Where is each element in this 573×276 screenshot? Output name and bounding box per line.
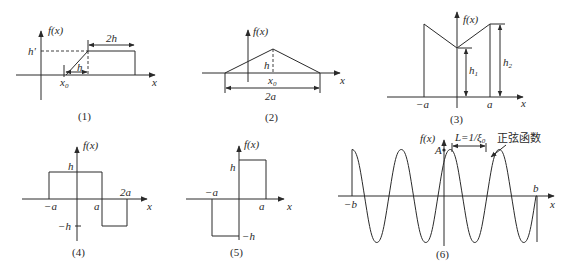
period-label: L=1/ξ0 <box>454 131 486 145</box>
x-axis-label: x <box>549 198 555 210</box>
caption: (4) <box>72 246 85 259</box>
panel-1: f(x) x h' h x0 2h (1) <box>16 24 157 123</box>
y-axis-label: f(x) <box>420 132 436 145</box>
function-curve-negative <box>212 199 239 236</box>
right-label: a <box>259 200 265 212</box>
figure-canvas: f(x) x h' h x0 2h (1) f(x) x h x0 2a (2)… <box>0 0 573 276</box>
right-label: a <box>487 98 493 110</box>
left-label: −a <box>44 200 57 212</box>
pos-height-label: h <box>230 161 236 173</box>
x-axis-label: x <box>286 200 292 212</box>
y-axis-label: f(x) <box>48 24 64 37</box>
sine-annotation: 正弦函数 <box>497 131 541 145</box>
caption: (3) <box>450 113 463 126</box>
panel-6: f(x) x A L=1/ξ0 正弦函数 −b b (6) <box>338 131 555 261</box>
caption: (5) <box>230 246 243 259</box>
height-label: h' <box>28 45 37 57</box>
y-axis-label: f(x) <box>463 13 479 26</box>
neg-height-label: −h <box>58 220 71 232</box>
height-label: h <box>264 59 270 71</box>
x-axis-label: x <box>146 200 152 212</box>
x0-label: x0 <box>59 76 69 90</box>
panel-2: f(x) x h x0 2a (2) <box>202 25 345 124</box>
y-axis-label: f(x) <box>244 138 260 151</box>
x-axis-label: x <box>151 76 157 88</box>
caption: (1) <box>78 110 91 123</box>
x-axis-label: x <box>339 74 345 86</box>
caption: (2) <box>265 111 278 124</box>
ramp-width-label: h <box>77 61 83 73</box>
panel-4: f(x) x h −h −a a 2a (4) <box>22 139 152 259</box>
amplitude-label: A <box>434 144 442 156</box>
left-label: −a <box>416 98 429 110</box>
left-label: −b <box>344 198 357 210</box>
base-width-label: 2a <box>265 90 277 102</box>
x-axis-label: x <box>520 97 526 109</box>
left-label: −a <box>205 186 218 198</box>
mid-label: a <box>94 200 100 212</box>
h2-label: h2 <box>503 56 513 70</box>
caption: (6) <box>436 248 449 261</box>
x0-label: x0 <box>267 74 277 88</box>
function-curve-positive <box>239 160 266 199</box>
neg-height-label: −h <box>242 230 255 242</box>
flat-width-label: 2h <box>106 32 118 44</box>
pos-height-label: h <box>68 160 74 172</box>
y-axis-label: f(x) <box>83 139 99 152</box>
right-label: b <box>533 182 539 194</box>
h1-label: h1 <box>469 64 478 78</box>
panel-5: f(x) x h −h −a a (5) <box>186 138 292 259</box>
right-label: 2a <box>120 186 132 198</box>
function-curve <box>225 49 320 73</box>
y-axis-label: f(x) <box>253 25 269 38</box>
panel-3: f(x) x h1 h2 −a a (3) <box>387 12 526 126</box>
